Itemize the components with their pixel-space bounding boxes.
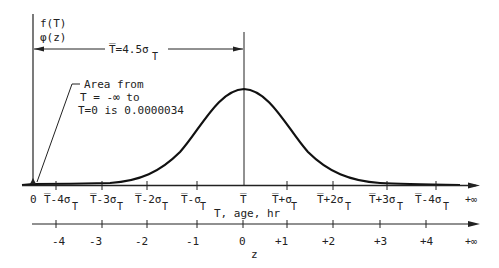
z-tick-label: -3 — [89, 235, 102, 248]
annotation-line-3: T=0 is 0.0000034 — [78, 104, 184, 117]
z-tick-label: -2 — [135, 235, 148, 248]
y-axis-label-f: f(T) — [40, 17, 67, 30]
t-axis-arrow-icon — [468, 183, 480, 189]
z-tick-label: +1 — [275, 235, 288, 248]
normal-distribution-diagram: f(T) φ(z) T̅=4.5σ T Area from T = -∞ to … — [0, 0, 499, 268]
t-tick-label: T̅+3σ — [369, 193, 396, 206]
z-tick-label: 0 — [239, 235, 246, 248]
left-tail-blob — [30, 178, 36, 184]
t-tick-sub: T — [291, 201, 297, 212]
y-axis-label-phi: φ(z) — [40, 31, 67, 44]
t-tick-sub: T — [117, 201, 123, 212]
z-tick-label: +2 — [322, 235, 335, 248]
t-tick-sub: T — [443, 201, 449, 212]
z-tick-label: -4 — [52, 235, 66, 248]
z-axis-arrow-icon — [468, 221, 480, 227]
t-tick-label: T̅+2σ — [317, 193, 344, 206]
arrow-left-icon — [34, 47, 44, 52]
annotation-line-1: Area from — [84, 78, 144, 91]
z-tick-label-infinity: +∞ — [465, 236, 477, 247]
t-tick-sub: T — [162, 201, 168, 212]
z-tick-label: -1 — [186, 235, 199, 248]
t-tick-label-infinity: +∞ — [465, 194, 477, 205]
z-axis-title: z — [251, 248, 258, 261]
t-tick-label: T̅-3σ — [90, 193, 117, 206]
t-tick-label: T̅-4σ — [44, 193, 71, 206]
z-tick-label: +3 — [374, 235, 387, 248]
dimension-label-sub: T — [152, 51, 158, 62]
t-tick-label: T̅-σ — [181, 193, 201, 206]
t-tick-label: T̅-4σ — [415, 193, 442, 206]
t-axis-title: T, age, hr — [214, 207, 281, 220]
t-tick-sub: T — [72, 201, 78, 212]
annotation-leader — [37, 84, 80, 182]
t-tick-label: T̅-2σ — [135, 193, 162, 206]
t-tick-label: T̅+σ — [272, 193, 292, 206]
z-tick-label: +4 — [420, 235, 434, 248]
dimension-label: T̅=4.5σ — [109, 43, 149, 56]
t-tick-sub: T — [200, 201, 206, 212]
arrow-right-icon — [233, 47, 243, 52]
t-tick-label: T̅ — [240, 193, 247, 206]
t-tick-sub: T — [345, 201, 351, 212]
annotation-line-2: T = -∞ to — [80, 91, 140, 104]
t-tick-sub: T — [397, 201, 403, 212]
t-tick-label: 0 — [30, 193, 37, 206]
